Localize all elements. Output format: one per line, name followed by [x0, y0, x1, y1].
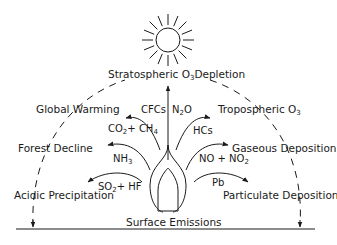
- effect-particulate-deposition: Particulate Deposition: [223, 189, 337, 201]
- pollutant-co2-ch4: CO2+ CH4: [108, 123, 158, 136]
- effect-forest-decline: Forest Decline: [18, 142, 93, 154]
- pollutant-hcs: HCs: [193, 125, 213, 136]
- atmospheric-effects-diagram: Stratospheric O3Depletion CFCs N2O CO2+ …: [0, 0, 337, 245]
- effect-tropospheric-o3: Tropospheric O3: [217, 103, 301, 117]
- pollutant-cfcs: CFCs: [141, 104, 166, 115]
- pollutant-pb: Pb: [212, 177, 224, 188]
- effect-gaseous-deposition: Gaseous Deposition: [232, 142, 337, 154]
- pollutant-nh3: NH3: [113, 153, 132, 166]
- pollutant-n2o: N2O: [172, 104, 192, 117]
- sun-icon: [142, 14, 194, 66]
- effect-global-warming: Global Warming: [36, 103, 120, 115]
- effect-acidic-precipitation: Acidic Precipitation: [14, 189, 114, 201]
- pollutant-no-no2: NO + NO2: [199, 153, 249, 166]
- surface-emissions-label: Surface Emissions: [126, 216, 222, 228]
- stratospheric-o3-depletion-label: Stratospheric O3Depletion: [108, 68, 245, 82]
